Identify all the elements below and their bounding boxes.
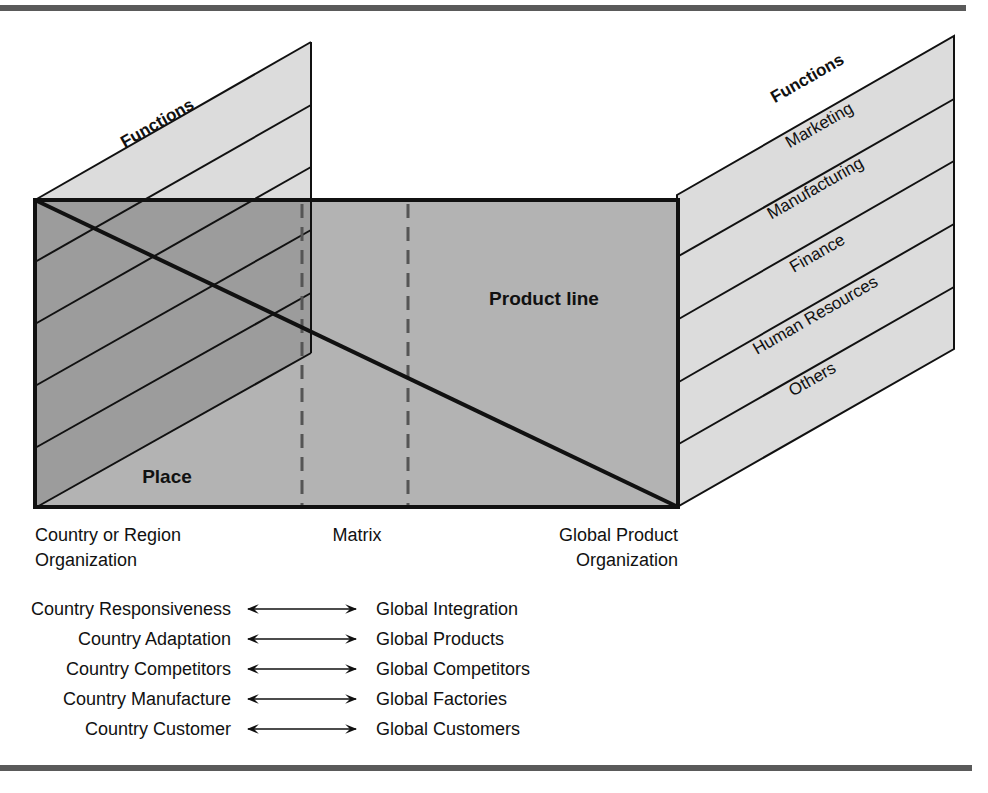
tradeoff-row: Country Competitors Global Competitors [66, 659, 530, 679]
tradeoff-row: Country Manufacture Global Factories [63, 689, 507, 709]
global-product-label-line2: Organization [576, 550, 678, 570]
right-functions-title: Functions [767, 50, 847, 107]
tradeoff-row: Country Customer Global Customers [85, 719, 520, 739]
bottom-rule [0, 765, 972, 771]
tradeoff-row: Country Responsiveness Global Integratio… [31, 599, 518, 619]
matrix-label: Matrix [333, 525, 382, 545]
global-factor: Global Integration [376, 599, 518, 619]
global-factor: Global Competitors [376, 659, 530, 679]
right-functions-panel [677, 36, 954, 507]
product-line-label: Product line [489, 288, 599, 309]
structure-axis-labels: Country or Region Organization Matrix Gl… [35, 525, 678, 570]
country-factor: Country Competitors [66, 659, 231, 679]
country-factor: Country Customer [85, 719, 231, 739]
country-factor: Country Responsiveness [31, 599, 231, 619]
tradeoff-list: Country Responsiveness Global Integratio… [31, 599, 530, 739]
global-product-label-line1: Global Product [559, 525, 678, 545]
global-factor: Global Products [376, 629, 504, 649]
tradeoff-row: Country Adaptation Global Products [78, 629, 504, 649]
country-factor: Country Adaptation [78, 629, 231, 649]
organization-structure-diagram: Product line Place Functions Functions M… [0, 0, 988, 793]
global-factor: Global Customers [376, 719, 520, 739]
country-region-label-line1: Country or Region [35, 525, 181, 545]
global-factor: Global Factories [376, 689, 507, 709]
country-region-label-line2: Organization [35, 550, 137, 570]
place-label: Place [142, 466, 192, 487]
top-rule [0, 5, 966, 11]
country-factor: Country Manufacture [63, 689, 231, 709]
